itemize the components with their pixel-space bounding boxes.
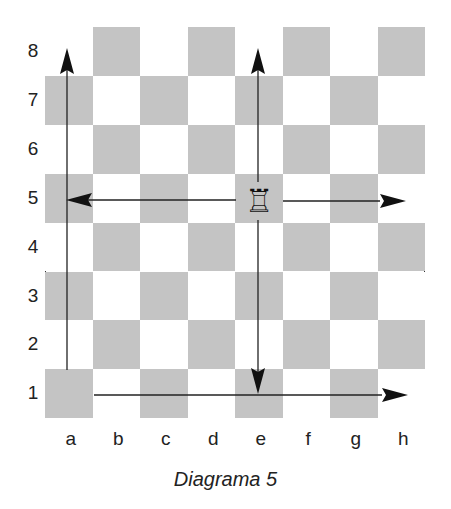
white-rook-icon: ♖ — [245, 184, 273, 218]
arrowhead-right-icon — [380, 194, 406, 208]
move-arrows — [0, 0, 451, 509]
diagram-caption: Diagrama 5 — [0, 468, 451, 491]
arrowhead-right-icon — [382, 388, 408, 402]
